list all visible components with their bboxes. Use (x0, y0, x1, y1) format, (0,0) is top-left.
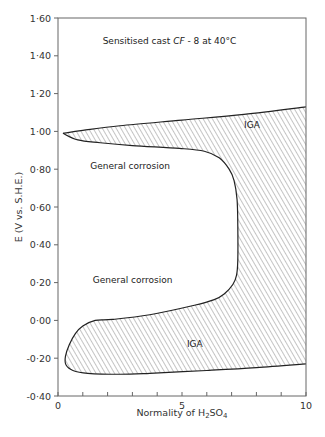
y-tick-label: 1·20 (30, 88, 51, 99)
x-tick-label: 10 (300, 400, 312, 411)
y-tick-label: 1·40 (30, 50, 51, 61)
y-axis-label: E (V vs. S.H.E.) (13, 172, 24, 243)
chart: 1·601·401·201·000·800·600·400·200·00-0·2… (0, 0, 325, 437)
iga-region-layer (63, 107, 306, 374)
region-label: General corrosion (93, 275, 173, 285)
region-label: General corrosion (90, 161, 170, 171)
y-tick-label: 0·40 (30, 239, 51, 250)
y-tick-label: -0·40 (26, 391, 51, 402)
y-tick-label: 0·20 (30, 277, 51, 288)
x-tick-label: 0 (55, 400, 61, 411)
y-tick-label: 1·00 (30, 126, 51, 137)
x-axis-label: Normality of H2SO4 (136, 407, 228, 420)
y-tick-label: 0·00 (30, 315, 51, 326)
region-label: IGA (244, 120, 261, 130)
chart-title-annotation: Sensitised cast CF - 8 at 40°C (103, 36, 237, 46)
region-label: IGA (187, 339, 204, 349)
y-tick-label: 0·80 (30, 164, 51, 175)
y-tick-label: -0·20 (26, 353, 51, 364)
y-tick-label: 0·60 (30, 202, 51, 213)
iga-region-fill (63, 107, 306, 374)
y-tick-label: 1·60 (30, 13, 51, 24)
